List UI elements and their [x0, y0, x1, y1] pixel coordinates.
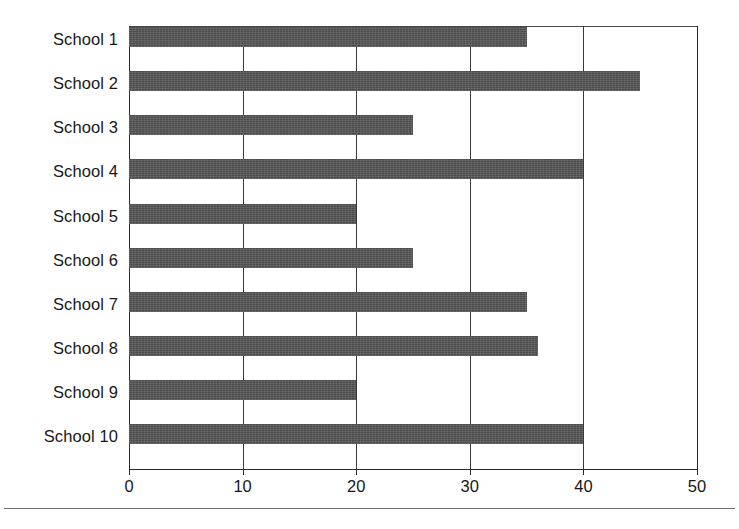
category-label-school-8: School 8: [53, 340, 118, 357]
tick-mark-30: [470, 469, 471, 475]
tick-label-50: 50: [688, 478, 706, 495]
value-axis: 0 10 20 30 40 50: [129, 469, 697, 509]
tick-label-10: 10: [233, 478, 251, 495]
bar-school-9: [129, 380, 356, 400]
bar-school-4: [129, 159, 583, 179]
category-label-school-6: School 6: [53, 252, 118, 269]
bar-school-6: [129, 248, 413, 268]
gridline-30: [470, 26, 471, 470]
gridline-40: [583, 26, 584, 470]
bar-school-1: [129, 27, 527, 47]
category-label-school-10: School 10: [44, 428, 118, 445]
tick-mark-0: [129, 469, 130, 475]
category-label-school-7: School 7: [53, 296, 118, 313]
bar-school-7: [129, 292, 527, 312]
category-label-school-4: School 4: [53, 163, 118, 180]
tick-label-20: 20: [347, 478, 365, 495]
gridline-50: [697, 26, 698, 470]
plot-area: [129, 26, 697, 470]
bar-school-5: [129, 204, 356, 224]
bar-school-8: [129, 336, 538, 356]
tick-mark-50: [697, 469, 698, 475]
category-label-school-2: School 2: [53, 75, 118, 92]
tick-mark-40: [583, 469, 584, 475]
category-axis-labels: School 1 School 2 School 3 School 4 Scho…: [0, 0, 124, 470]
bar-school-2: [129, 71, 640, 91]
category-label-school-9: School 9: [53, 384, 118, 401]
bar-school-10: [129, 424, 583, 444]
tick-mark-10: [243, 469, 244, 475]
tick-label-40: 40: [574, 478, 592, 495]
footer-divider: [4, 508, 735, 509]
tick-label-0: 0: [124, 478, 133, 495]
tick-mark-20: [356, 469, 357, 475]
tick-label-30: 30: [461, 478, 479, 495]
category-label-school-1: School 1: [53, 31, 118, 48]
category-label-school-5: School 5: [53, 208, 118, 225]
category-label-school-3: School 3: [53, 119, 118, 136]
bar-school-3: [129, 115, 413, 135]
bar-chart-figure: School 1 School 2 School 3 School 4 Scho…: [0, 0, 739, 529]
